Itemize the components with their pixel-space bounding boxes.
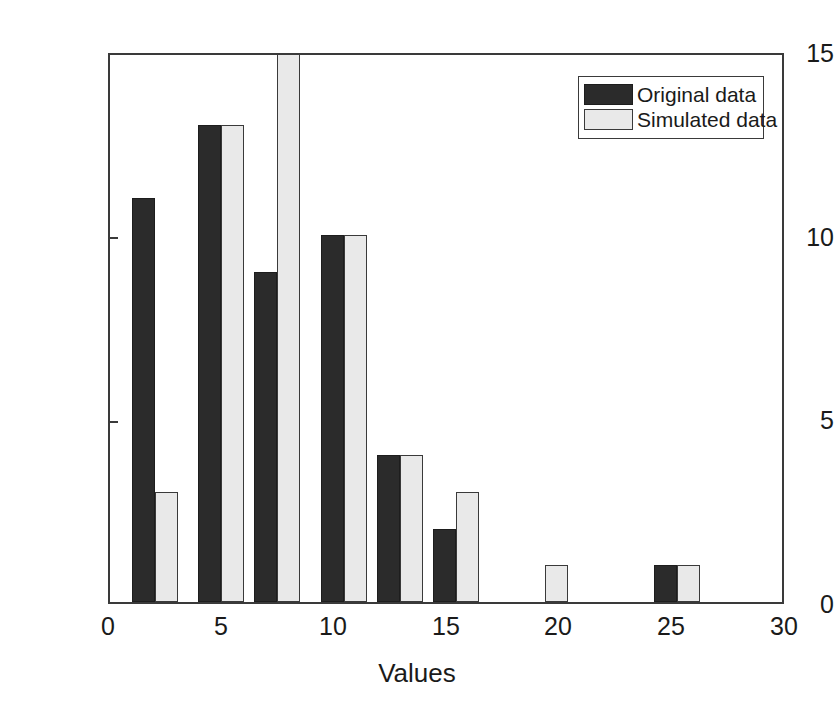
legend-entry-simulated[interactable]: Simulated data (584, 107, 759, 132)
bar-simulated-5[interactable] (400, 455, 423, 602)
x-tick-label-10: 10 (319, 614, 347, 639)
chart-legend[interactable]: Original data Simulated data (578, 76, 764, 139)
x-tick-label-30: 30 (770, 614, 798, 639)
x-tick-label-5: 5 (214, 614, 228, 639)
bar-original-5[interactable] (377, 455, 400, 602)
bar-simulated-6[interactable] (456, 492, 479, 602)
x-tick-label-0: 0 (101, 614, 115, 639)
histogram-figure: 15 10 5 0 Relative Frequency (0, 0, 834, 707)
bar-original-4[interactable] (321, 235, 344, 602)
bar-simulated-8[interactable] (677, 565, 700, 602)
plot-area: Original data Simulated data (108, 53, 784, 604)
bar-original-8[interactable] (654, 565, 677, 602)
bar-original-2[interactable] (198, 125, 221, 602)
legend-entry-original[interactable]: Original data (584, 82, 759, 107)
bar-simulated-3-clipped[interactable] (277, 53, 300, 602)
bar-simulated-4[interactable] (344, 235, 367, 602)
legend-label-simulated: Simulated data (637, 109, 777, 130)
bar-simulated-7[interactable] (545, 565, 568, 602)
bar-original-6[interactable] (433, 529, 456, 602)
legend-swatch-original-icon (584, 84, 633, 105)
x-tick-label-15: 15 (432, 614, 460, 639)
legend-label-original: Original data (637, 84, 756, 105)
bar-simulated-1[interactable] (155, 492, 178, 602)
x-tick-label-25: 25 (657, 614, 685, 639)
x-tick-label-20: 20 (544, 614, 572, 639)
bar-original-1[interactable] (132, 198, 155, 602)
x-axis-title: Values (0, 660, 834, 686)
bar-original-3[interactable] (254, 272, 277, 602)
legend-swatch-simulated-icon (584, 109, 633, 130)
bar-simulated-2[interactable] (221, 125, 244, 602)
